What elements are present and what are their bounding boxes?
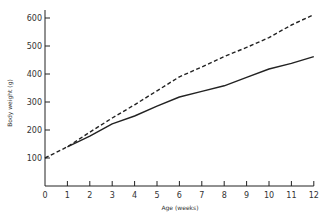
x-tick-label: 1 — [65, 191, 70, 200]
solid-series-line — [67, 57, 313, 147]
x-tick-label: 4 — [132, 191, 137, 200]
x-tick-label: 6 — [177, 191, 182, 200]
x-tick-label: 11 — [286, 191, 296, 200]
x-tick-label: 9 — [244, 191, 249, 200]
data-lines — [45, 15, 314, 158]
y-axis-label: Body weight (g) — [6, 79, 14, 127]
x-tick-label: 10 — [264, 191, 274, 200]
y-tick-label: 600 — [27, 14, 42, 23]
body-weight-chart: 0123456789101112 100200300400500600 Age … — [0, 0, 327, 215]
dashed-series-line — [45, 15, 314, 158]
x-tick-label: 3 — [110, 191, 115, 200]
axes — [45, 10, 314, 186]
y-tick-label: 100 — [27, 154, 42, 163]
x-axis-ticks: 0123456789101112 — [42, 181, 318, 200]
x-tick-label: 0 — [42, 191, 47, 200]
y-tick-label: 200 — [27, 126, 42, 135]
x-axis-label: Age (weeks) — [161, 204, 198, 212]
x-tick-label: 5 — [154, 191, 159, 200]
x-tick-label: 8 — [222, 191, 227, 200]
y-axis-ticks: 100200300400500600 — [27, 14, 50, 163]
x-tick-label: 12 — [309, 191, 319, 200]
y-tick-label: 500 — [27, 42, 42, 51]
y-tick-label: 400 — [27, 70, 42, 79]
y-tick-label: 300 — [27, 98, 42, 107]
x-tick-label: 7 — [199, 191, 204, 200]
x-tick-label: 2 — [87, 191, 92, 200]
